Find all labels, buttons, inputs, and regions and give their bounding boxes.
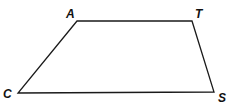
vertex-label-s: S bbox=[218, 91, 226, 104]
vertex-label-c: C bbox=[3, 87, 12, 101]
trapezoid-shape bbox=[18, 21, 214, 93]
trapezoid-diagram: A T S C bbox=[0, 0, 228, 104]
vertex-label-t: T bbox=[195, 7, 204, 21]
vertex-label-a: A bbox=[65, 7, 75, 21]
